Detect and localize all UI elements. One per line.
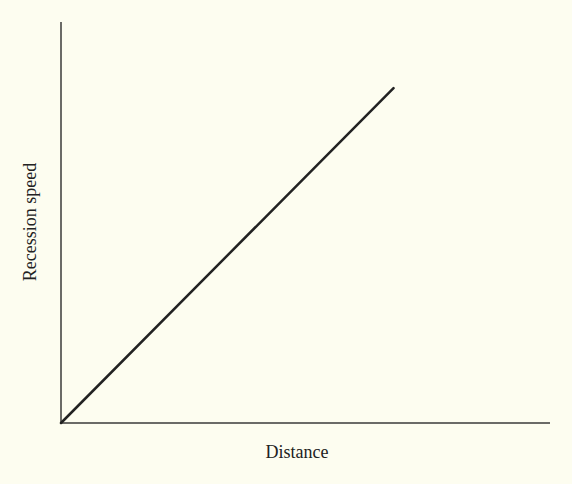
y-axis-label: Recession speed: [20, 163, 41, 281]
data-line: [61, 88, 394, 423]
x-axis-label: Distance: [266, 442, 329, 463]
chart-canvas: [0, 0, 572, 484]
